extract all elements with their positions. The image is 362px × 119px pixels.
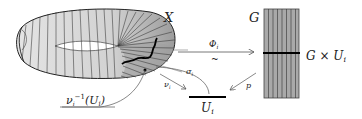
label-iso: ~ xyxy=(211,54,219,64)
label-projection-p: p xyxy=(246,81,251,90)
label-base-open-set: Ui xyxy=(201,101,214,116)
label-trivialization: Φi xyxy=(209,39,218,50)
label-product: G × Ui xyxy=(306,49,346,64)
label-preimage: νi−1(Ui) xyxy=(66,93,105,108)
label-section: σi xyxy=(186,67,193,77)
label-nu-sub: i xyxy=(169,84,171,90)
label-phi: Φ xyxy=(209,39,216,49)
total-space-band xyxy=(17,9,175,79)
label-sigma-sub: i xyxy=(191,71,193,77)
label-total-space: X xyxy=(163,10,174,25)
label-projection-nu: νi xyxy=(164,80,171,90)
label-phi-sub: i xyxy=(216,43,218,50)
product-projection-arrow xyxy=(230,73,256,90)
label-product-sub: i xyxy=(343,55,346,64)
fiber-bundle-diagram: X G Φi ~ G × Ui σi p νi Ui νi−1(Ui) xyxy=(0,0,362,119)
label-product-main: G × U xyxy=(306,49,344,63)
label-preimage-sub: i xyxy=(73,100,75,107)
label-U-sub: i xyxy=(211,107,214,116)
label-preimage-arg: (U xyxy=(85,94,99,107)
band-leader-2 xyxy=(162,66,182,72)
label-preimage-close: ) xyxy=(100,94,105,107)
label-preimage-sup: −1 xyxy=(75,93,85,101)
fiber-rectangle xyxy=(263,9,300,98)
label-fiber: G xyxy=(249,10,259,25)
